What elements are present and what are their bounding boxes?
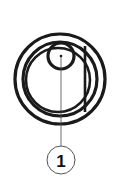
- figure-container: 1: [0, 0, 120, 188]
- callout-1-label: 1: [56, 152, 65, 171]
- center-dot-marker: [60, 55, 63, 58]
- technical-drawing: 1: [0, 0, 120, 188]
